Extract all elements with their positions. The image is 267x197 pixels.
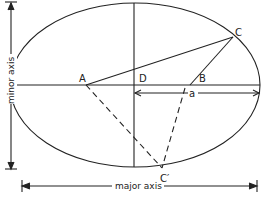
major-axis-label: major axis [115,181,162,191]
label-d: D [139,73,147,84]
minor-axis-label: minor axis [6,57,16,104]
ellipse-diagram: A D B C C′ a major axis minor axis [0,0,267,197]
arrow-down-icon [8,162,14,169]
label-a: A [79,73,86,84]
arrow-up-icon [8,3,14,10]
label-b: B [199,73,206,84]
label-c: C [235,27,242,38]
label-a-length: a [189,88,195,99]
dashed-line-ac-prime [86,85,162,168]
dashed-line-c-c-prime [162,88,185,168]
